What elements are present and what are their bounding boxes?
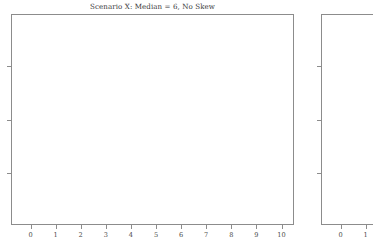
x-tick-mark (341, 225, 342, 229)
y-tick-mark (7, 120, 12, 121)
x-tick-mark (106, 225, 107, 229)
y-tick-mark (317, 66, 322, 67)
x-tick-label: 4 (129, 231, 133, 239)
x-tick-label: 9 (254, 231, 258, 239)
x-tick-label: 10 (277, 231, 285, 239)
y-tick-mark (7, 66, 12, 67)
x-tick-mark (31, 225, 32, 229)
plot-panel-secondary: 01 (300, 0, 373, 244)
plot-area-secondary (321, 14, 373, 225)
y-tick-mark (317, 173, 322, 174)
x-tick-mark (181, 225, 182, 229)
x-tick-label: 6 (179, 231, 183, 239)
x-tick-label: 0 (338, 231, 342, 239)
x-tick-mark (282, 225, 283, 229)
x-tick-mark (256, 225, 257, 229)
figure-canvas: Scenario X: Median = 6, No Skew 01234567… (0, 0, 373, 244)
x-tick-mark (131, 225, 132, 229)
x-tick-mark (81, 225, 82, 229)
plot-area-main (11, 14, 294, 225)
x-tick-mark (366, 225, 367, 229)
x-tick-label: 2 (79, 231, 83, 239)
x-tick-label: 1 (363, 231, 367, 239)
x-tick-label: 7 (204, 231, 208, 239)
x-tick-label: 3 (104, 231, 108, 239)
x-tick-label: 1 (53, 231, 57, 239)
x-tick-mark (231, 225, 232, 229)
x-tick-mark (156, 225, 157, 229)
plot-title: Scenario X: Median = 6, No Skew (11, 2, 294, 11)
plot-panel-main: Scenario X: Median = 6, No Skew 01234567… (0, 0, 300, 244)
y-tick-mark (7, 173, 12, 174)
x-tick-label: 5 (154, 231, 158, 239)
y-tick-mark (317, 120, 322, 121)
x-tick-mark (56, 225, 57, 229)
x-tick-mark (206, 225, 207, 229)
x-tick-label: 0 (28, 231, 32, 239)
x-tick-label: 8 (229, 231, 233, 239)
